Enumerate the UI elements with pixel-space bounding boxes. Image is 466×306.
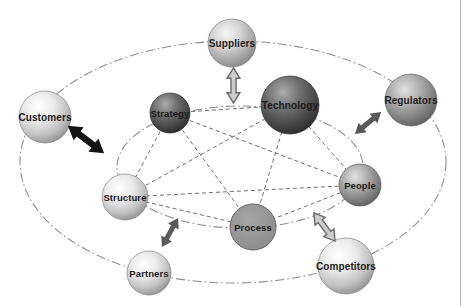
partners-label: Partners — [129, 268, 168, 279]
process-label: Process — [234, 222, 272, 233]
node-structure: Structure — [102, 174, 148, 220]
node-strategy: Strategy — [150, 93, 190, 133]
node-partners: Partners — [127, 251, 171, 295]
node-technology: Technology — [261, 76, 319, 134]
double-arrow-people-competitors-icon — [309, 209, 340, 245]
diagram-canvas: Suppliers Customers Regulators Partners … — [0, 0, 466, 306]
node-process: Process — [230, 204, 276, 250]
node-people: People — [339, 164, 381, 206]
technology-label: Technology — [262, 100, 319, 111]
competitors-label: Competitors — [316, 261, 376, 272]
people-label: People — [344, 180, 376, 191]
node-suppliers: Suppliers — [208, 19, 256, 67]
node-customers: Customers — [18, 91, 71, 143]
double-arrow-suppliers-technology-icon — [227, 68, 240, 103]
customers-label: Customers — [18, 112, 71, 123]
structure-label: Structure — [103, 192, 146, 203]
network-diagram-svg: Suppliers Customers Regulators Partners … — [0, 0, 466, 306]
double-arrow-regulators-people-icon — [351, 107, 385, 139]
strategy-label: Strategy — [151, 108, 190, 119]
link-strategy-people — [170, 113, 360, 185]
suppliers-label: Suppliers — [209, 38, 256, 49]
regulators-label: Regulators — [384, 95, 438, 106]
link-structure-people — [125, 185, 360, 197]
node-competitors: Competitors — [316, 238, 376, 294]
node-regulators: Regulators — [384, 74, 438, 126]
double-arrow-structure-partners-icon — [157, 215, 184, 250]
